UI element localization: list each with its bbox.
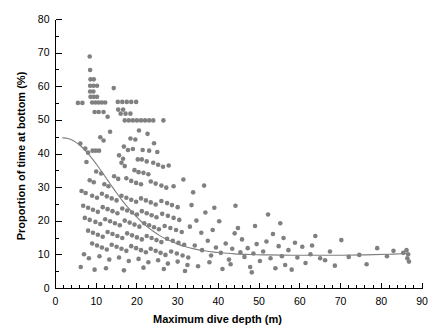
data-point <box>121 156 126 161</box>
data-point <box>148 200 153 205</box>
data-point <box>87 256 92 261</box>
y-tick-label: 70 <box>20 46 50 58</box>
data-point <box>175 205 180 210</box>
data-point <box>300 245 305 250</box>
data-point <box>140 148 145 153</box>
data-point <box>141 171 146 176</box>
data-point <box>144 198 149 203</box>
data-point <box>119 247 124 252</box>
data-point <box>160 212 165 217</box>
data-point <box>189 203 194 208</box>
data-point <box>207 260 212 265</box>
data-point <box>152 141 157 146</box>
data-point <box>318 256 323 261</box>
data-point <box>90 193 95 198</box>
data-point <box>199 230 204 235</box>
data-point <box>86 206 91 211</box>
data-point <box>110 232 115 237</box>
data-point <box>346 255 351 260</box>
data-point <box>271 232 276 237</box>
data-point <box>248 265 253 270</box>
data-point <box>135 157 140 162</box>
data-point <box>147 148 152 153</box>
data-point <box>151 160 156 165</box>
data-point <box>115 234 120 239</box>
data-point <box>295 255 300 260</box>
data-point <box>209 253 214 258</box>
data-point <box>139 118 144 123</box>
data-point <box>83 191 88 196</box>
data-point <box>293 240 298 245</box>
data-point <box>139 248 144 253</box>
data-point <box>230 247 235 252</box>
data-point <box>100 205 105 210</box>
data-point <box>81 203 86 208</box>
data-point <box>130 233 135 238</box>
data-point <box>120 100 125 105</box>
data-point <box>401 251 406 256</box>
y-tick-label: 50 <box>20 113 50 125</box>
data-point <box>122 218 127 223</box>
data-point <box>212 206 217 211</box>
data-point <box>108 219 113 224</box>
data-point <box>232 231 237 236</box>
data-point <box>135 212 140 217</box>
data-point <box>144 159 149 164</box>
data-point <box>177 218 182 223</box>
data-point <box>97 148 102 153</box>
data-point <box>97 254 102 259</box>
data-point <box>123 111 128 116</box>
data-point <box>117 255 122 260</box>
data-point <box>84 160 89 165</box>
data-point <box>217 219 222 224</box>
data-point <box>219 251 224 256</box>
data-point <box>136 170 141 175</box>
x-tick-label: 30 <box>163 295 193 307</box>
data-point <box>157 227 162 232</box>
data-point <box>130 210 135 215</box>
data-point <box>147 118 152 123</box>
data-point <box>86 228 91 233</box>
data-point <box>141 265 146 270</box>
data-point <box>100 234 105 239</box>
data-point <box>192 243 197 248</box>
data-point <box>161 118 166 123</box>
data-point <box>137 224 142 229</box>
data-point <box>87 178 92 183</box>
data-point <box>159 240 164 245</box>
data-point <box>83 216 88 221</box>
data-point <box>131 147 136 152</box>
y-tick-label: 40 <box>20 147 50 159</box>
data-point <box>283 263 288 268</box>
data-point <box>139 182 144 187</box>
data-point <box>169 249 174 254</box>
data-point <box>286 248 291 253</box>
data-point <box>127 118 132 123</box>
data-point <box>168 226 173 231</box>
data-point <box>176 240 181 245</box>
data-point <box>105 230 110 235</box>
data-point <box>121 107 126 112</box>
data-point <box>124 100 129 105</box>
data-point <box>95 83 100 88</box>
data-point <box>120 206 125 211</box>
data-point <box>308 252 313 257</box>
data-point <box>159 199 164 204</box>
data-point <box>96 232 101 237</box>
data-point <box>147 223 152 228</box>
data-point <box>175 251 180 256</box>
data-point <box>135 118 140 123</box>
data-point <box>268 256 273 261</box>
data-point <box>137 128 142 133</box>
data-point <box>109 242 114 247</box>
data-point <box>124 249 129 254</box>
data-point <box>95 95 100 100</box>
data-point <box>86 150 91 155</box>
data-point <box>140 209 145 214</box>
data-point <box>144 234 149 239</box>
data-point <box>135 235 140 240</box>
data-point <box>289 267 294 272</box>
data-point <box>111 86 116 91</box>
data-point <box>149 213 154 218</box>
data-point <box>155 150 160 155</box>
